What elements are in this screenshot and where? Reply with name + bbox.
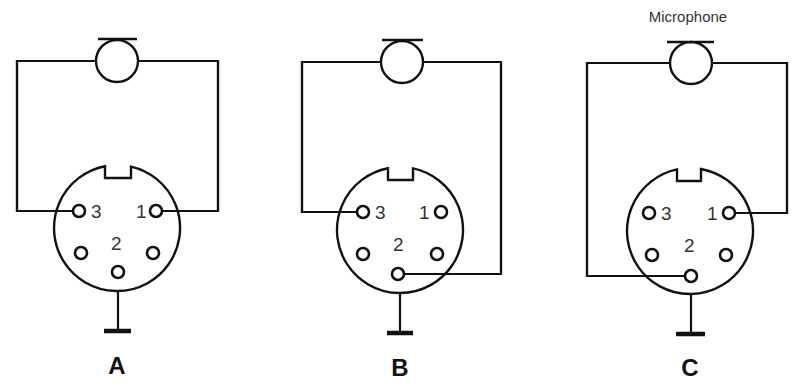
pin-lower-left-icon bbox=[646, 249, 658, 261]
pin-3-icon bbox=[643, 207, 655, 219]
pin-2-icon bbox=[685, 270, 697, 282]
pin-2-icon bbox=[112, 266, 124, 278]
pin-label-1: 1 bbox=[136, 201, 147, 222]
pin-label-2: 2 bbox=[684, 235, 695, 256]
pin-lower-right-icon bbox=[431, 248, 443, 260]
diagram-label-c: C bbox=[681, 354, 698, 381]
microphone-icon bbox=[96, 40, 138, 82]
din-microphone-wiring-diagrams: Microphone 312A312B312C bbox=[0, 0, 802, 388]
pin-label-2: 2 bbox=[393, 234, 404, 255]
diagram-canvas: Microphone 312A312B312C bbox=[0, 0, 802, 388]
pin-label-2: 2 bbox=[111, 233, 122, 254]
microphone-icon bbox=[381, 41, 423, 83]
pin-label-3: 3 bbox=[661, 203, 672, 224]
diagram-a: 312A bbox=[17, 39, 218, 379]
pin-1-icon bbox=[723, 207, 735, 219]
pin-3-icon bbox=[73, 205, 85, 217]
pin-1-icon bbox=[435, 206, 447, 218]
pin-label-3: 3 bbox=[91, 201, 102, 222]
pin-label-1: 1 bbox=[707, 203, 718, 224]
pin-lower-left-icon bbox=[357, 248, 369, 260]
microphone-caption: Microphone bbox=[649, 8, 727, 25]
microphone-icon bbox=[670, 42, 712, 84]
pin-lower-right-icon bbox=[720, 249, 732, 261]
pin-lower-right-icon bbox=[147, 247, 159, 259]
pin-label-3: 3 bbox=[375, 202, 386, 223]
pin-lower-left-icon bbox=[75, 247, 87, 259]
diagram-label-b: B bbox=[391, 354, 408, 381]
pin-2-icon bbox=[392, 268, 404, 280]
diagram-c: 312C bbox=[587, 42, 787, 381]
pin-3-icon bbox=[357, 206, 369, 218]
pin-1-icon bbox=[150, 205, 162, 217]
pin-label-1: 1 bbox=[419, 202, 430, 223]
diagram-label-a: A bbox=[108, 352, 125, 379]
diagram-b: 312B bbox=[302, 40, 501, 381]
